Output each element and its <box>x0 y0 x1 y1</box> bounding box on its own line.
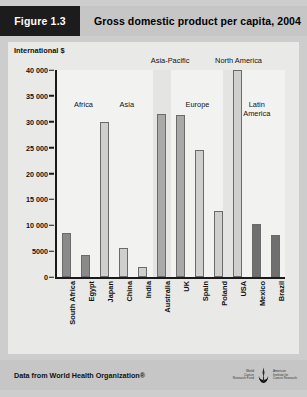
x-tick-label: Spain <box>201 281 210 301</box>
logo-group: World Cancer Research Fund American Inst… <box>233 367 297 384</box>
group-label-above: Asia-Pacific <box>151 56 190 65</box>
figure-number-label: Figure 1.3 <box>14 15 66 27</box>
y-axis-title: International $ <box>14 46 65 55</box>
x-tick-label: Poland <box>220 281 229 306</box>
x-tick-label: UK <box>182 281 191 292</box>
group-label: Africa <box>74 101 93 110</box>
figure-number-badge: Figure 1.3 <box>0 6 80 36</box>
x-tick-label: USA <box>239 281 248 297</box>
x-axis-labels: South AfricaEgyptJapanChinaIndiaAustrali… <box>55 281 283 347</box>
x-tick-label: Egypt <box>87 281 96 302</box>
figure-footer: Data from World Health Organization® Wor… <box>0 360 307 390</box>
group-labels-inside: AfricaAsiaEuropeLatin America <box>55 70 283 277</box>
figure-header: Figure 1.3 Gross domestic product per ca… <box>0 6 307 36</box>
aicr-logo-text: American Institute for Cancer Research <box>273 370 297 381</box>
x-tick-label: Mexico <box>258 281 267 306</box>
figure-title-bar: Gross domestic product per capita, 2004 <box>80 6 307 36</box>
wcrf-logo-text: World Cancer Research Fund <box>233 370 254 381</box>
chart-container: International $ 0500010 00015 00020 0002… <box>8 42 299 354</box>
group-label-above: North America <box>215 56 262 65</box>
page-title: Gross domestic product per capita, 2004 <box>94 15 301 27</box>
y-tick-label: 0 <box>44 273 55 282</box>
group-label: Latin America <box>243 101 270 118</box>
y-tick-label: 30 000 <box>26 117 55 126</box>
y-tick-label: 5000 <box>32 247 55 256</box>
x-tick-label: Australia <box>163 281 172 313</box>
y-tick-label: 15 000 <box>26 195 55 204</box>
source-note: Data from World Health Organization® <box>14 371 145 380</box>
x-tick-label: Brazil <box>277 281 286 301</box>
x-tick-label: India <box>144 281 153 298</box>
x-tick-label: South Africa <box>68 281 77 325</box>
wcrf-aicr-emblem-icon <box>257 367 270 384</box>
figure-card: Figure 1.3 Gross domestic product per ca… <box>0 0 307 397</box>
y-tick-label: 25 000 <box>26 143 55 152</box>
y-tick-label: 40 000 <box>26 66 55 75</box>
y-tick-label: 10 000 <box>26 221 55 230</box>
group-label: Asia <box>120 101 134 110</box>
y-axis-ticks: 0500010 00015 00020 00025 00030 00035 00… <box>8 70 55 279</box>
x-tick-label: Japan <box>106 281 115 302</box>
y-tick-label: 35 000 <box>26 91 55 100</box>
x-tick-label: China <box>125 281 134 302</box>
group-label: Europe <box>186 101 210 110</box>
y-tick-label: 20 000 <box>26 169 55 178</box>
